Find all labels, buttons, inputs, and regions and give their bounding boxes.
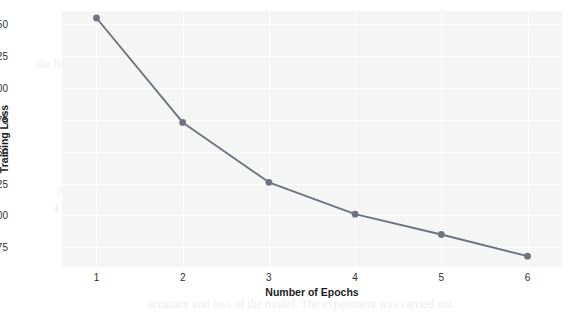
series-line [96, 18, 527, 256]
data-point-marker [93, 15, 100, 22]
chart-figure: computed in a step-wise manner while mod… [0, 0, 574, 319]
data-point-marker [524, 253, 531, 260]
data-point-marker [438, 231, 445, 238]
x-axis-label: Number of Epochs [62, 286, 562, 298]
y-axis-label: Training Loss [0, 105, 10, 173]
data-point-marker [179, 119, 186, 126]
data-point-marker [352, 211, 359, 218]
line-series [0, 0, 574, 319]
data-point-marker [265, 179, 272, 186]
